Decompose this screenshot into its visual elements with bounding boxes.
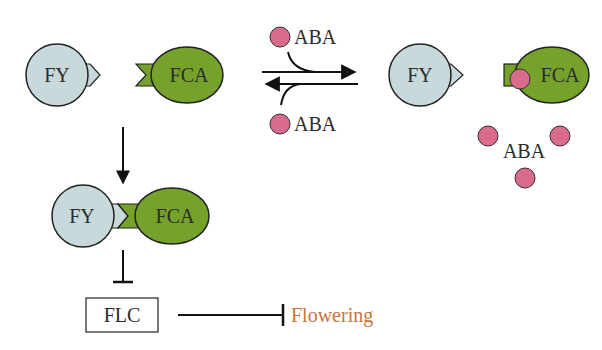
fy-protein-free: FY xyxy=(26,44,100,106)
aba-top-label: ABA xyxy=(294,26,337,48)
fy-right-label: FY xyxy=(407,64,433,86)
inhibition-flc-to-flowering xyxy=(178,304,283,326)
fy-fca-complex: FY FCA xyxy=(52,185,209,247)
fy-label: FY xyxy=(44,64,70,86)
fca-bound-label: FCA xyxy=(541,64,580,86)
flc-box: FLC xyxy=(86,298,158,332)
aba-molecule-bottom: ABA xyxy=(270,113,337,135)
fca-complex-label: FCA xyxy=(156,205,195,227)
inhibition-complex-to-flc xyxy=(113,250,133,282)
aba-molecule-top: ABA xyxy=(270,26,337,48)
aba-free-cluster: ABA xyxy=(478,126,570,188)
fy-fca-aba-pathway-diagram: FY FCA FY FCA FLC Flowering ABA xyxy=(0,0,602,350)
fca-label: FCA xyxy=(170,64,209,86)
aba-bottom-label: ABA xyxy=(294,113,337,135)
fca-aba-bound: FCA xyxy=(504,47,589,103)
flowering-label: Flowering xyxy=(291,304,373,327)
fy-complex-label: FY xyxy=(69,205,95,227)
aba-cluster-label: ABA xyxy=(503,140,546,162)
fca-protein-free: FCA xyxy=(136,47,223,103)
fy-protein-right: FY xyxy=(389,44,463,106)
flc-label: FLC xyxy=(104,304,141,326)
reversible-arrows xyxy=(262,52,358,105)
